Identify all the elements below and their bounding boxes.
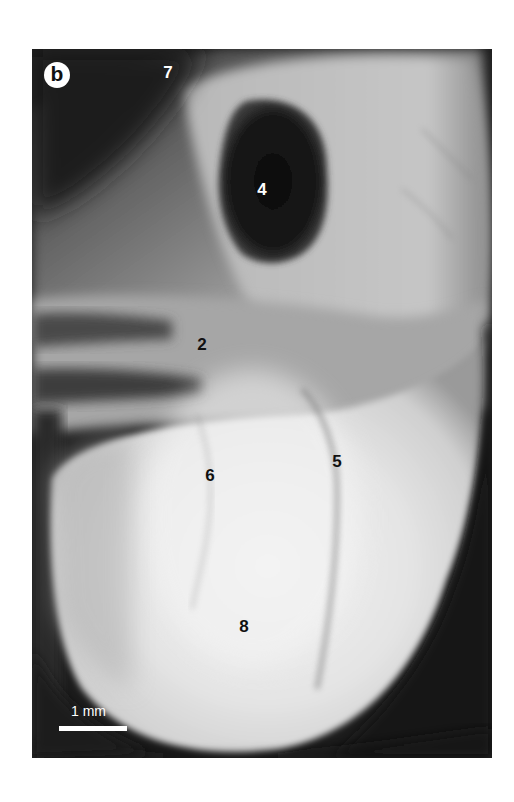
annotation-4: 4 [257,181,266,198]
annotation-7: 7 [163,64,172,81]
figure-page: b 7 4 2 6 5 8 1 mm [0,0,514,802]
annotation-5: 5 [332,453,341,470]
panel-label-text: b [51,62,64,85]
micrograph-photo [32,49,492,758]
scale-bar-label: 1 mm [71,703,106,719]
panel-label-badge: b [44,62,70,88]
annotation-2: 2 [197,336,206,353]
micrograph-rendering [32,49,492,758]
annotation-8: 8 [239,618,248,635]
annotation-6: 6 [205,467,214,484]
scale-bar [59,726,127,731]
